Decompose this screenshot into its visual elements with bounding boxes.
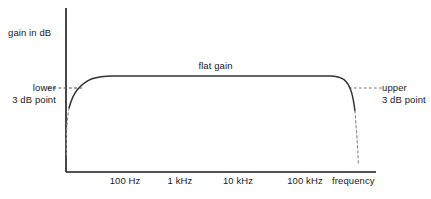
frequency-response-figure: gain in dB flat gain lower 3 dB point up… (0, 0, 431, 199)
lower-3db-line2: 3 dB point (0, 94, 56, 106)
lower-3db-point-annotation: lower 3 dB point (0, 82, 56, 105)
x-tick-label-10khz: 10 kHz (208, 175, 268, 187)
response-curve-solid (69, 76, 355, 111)
x-tick-label-100khz: 100 kHz (275, 175, 335, 187)
upper-3db-line2: 3 dB point (382, 94, 426, 106)
x-tick-label-100hz: 100 Hz (95, 175, 155, 187)
upper-3db-point-annotation: upper 3 dB point (382, 82, 426, 105)
x-axis-title: frequency (332, 175, 375, 187)
frequency-response-plot (0, 0, 431, 199)
upper-rolloff-dashed-extension (355, 111, 359, 164)
y-axis-title: gain in dB (8, 27, 51, 39)
x-tick-label-1khz: 1 kHz (150, 175, 210, 187)
flat-gain-annotation: flat gain (0, 60, 431, 72)
lower-3db-line1: lower (0, 82, 56, 94)
upper-3db-line1: upper (382, 82, 426, 94)
